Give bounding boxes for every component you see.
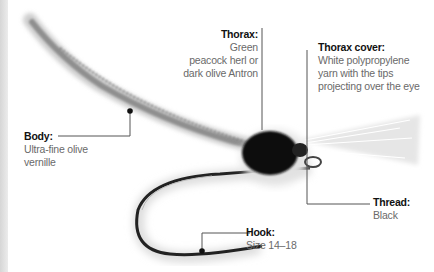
label-hook: Hook: Size 14–18 [246,226,297,252]
label-thread: Thread: Black [373,196,410,222]
label-body: Body: Ultra-fine olive vernille [24,130,88,169]
thorax-herl [241,130,309,186]
label-thorax-cover: Thorax cover: White polypropylene yarn w… [318,41,420,93]
label-thorax: Thorax: Green peacock herl or dark olive… [170,28,258,80]
